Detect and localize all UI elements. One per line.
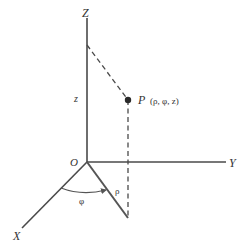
cylindrical-coordinate-diagram: Z Y X O P (ρ, φ, z) z ρ φ <box>0 0 246 249</box>
point-name-label: P <box>137 93 146 107</box>
phi-angle-arc <box>61 188 106 193</box>
phi-label: φ <box>79 196 84 206</box>
point-p-dot <box>125 97 131 103</box>
rho-line <box>87 162 128 218</box>
z-axis-label: Z <box>82 6 89 20</box>
y-axis-label: Y <box>229 156 237 170</box>
z-to-point-dashed-line <box>87 45 128 100</box>
z-height-label: z <box>73 93 78 104</box>
point-coords-label: (ρ, φ, z) <box>150 96 179 106</box>
origin-label: O <box>70 156 78 168</box>
rho-label: ρ <box>115 186 120 196</box>
x-axis-label: X <box>12 229 21 243</box>
x-axis <box>22 162 87 228</box>
